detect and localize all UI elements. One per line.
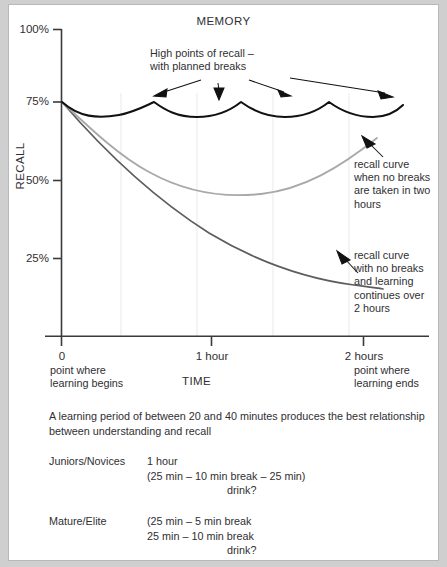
x-tick-label-1-hour: 1 hour xyxy=(177,350,247,362)
schedule-line-1: (25 min – 5 min break xyxy=(147,514,431,529)
schedule-line-2: 25 min – 10 min break xyxy=(147,529,431,544)
schedule-row-label: Juniors/Novices xyxy=(49,454,147,498)
annotation-high-points: High points of recall – with planned bre… xyxy=(150,47,330,73)
x-tick-label-2-hours: 2 hours xyxy=(329,350,399,362)
schedule-drink-note: drink? xyxy=(227,483,431,498)
y-tick-label-25: 25% xyxy=(8,252,49,264)
x-axis-ticks xyxy=(62,336,364,346)
note-learning-ends: point where learning ends xyxy=(354,364,439,390)
curve-planned-breaks xyxy=(62,102,403,117)
y-axis-title: RECALL xyxy=(14,136,26,196)
page-root: MEMORY RECALL TIME 100% 75% 50% 25% 0 1 … xyxy=(0,0,447,567)
schedule-row-body: 1 hour (25 min – 10 min break – 25 min) … xyxy=(147,454,431,498)
schedule-line-2: (25 min – 10 min break – 25 min) xyxy=(147,469,431,484)
schedule-line-1: 1 hour xyxy=(147,454,431,469)
intro-paragraph: A learning period of between 20 and 40 m… xyxy=(49,409,431,438)
y-tick-label-50: 50% xyxy=(8,174,49,186)
schedule-line-3: 25 min) xyxy=(147,558,431,561)
schedule-row-body: (25 min – 5 min break 25 min – 10 min br… xyxy=(147,514,431,561)
schedule-row: Mature/Elite (25 min – 5 min break 25 mi… xyxy=(49,514,431,561)
y-tick-label-75: 75% xyxy=(8,95,49,107)
y-tick-label-100: 100% xyxy=(8,23,49,35)
y-axis-ticks xyxy=(53,30,62,259)
x-tick-label-0: 0 xyxy=(27,350,97,362)
explanatory-text-block: A learning period of between 20 and 40 m… xyxy=(49,409,431,561)
schedule-drink-note: drink? xyxy=(227,543,431,558)
annotation-learning-continues: recall curve with no breaks and learning… xyxy=(354,249,439,315)
schedule-row-label: Mature/Elite xyxy=(49,514,147,561)
curve-learning-continues xyxy=(62,102,383,289)
figure-panel: MEMORY RECALL TIME 100% 75% 50% 25% 0 1 … xyxy=(8,4,439,561)
annotation-no-breaks: recall curve when no breaks are taken in… xyxy=(354,158,439,211)
note-learning-begins: point where learning begins xyxy=(50,364,160,390)
chart-area: MEMORY RECALL TIME 100% 75% 50% 25% 0 1 … xyxy=(9,5,438,397)
chart-title: MEMORY xyxy=(9,15,438,27)
schedule-row: Juniors/Novices 1 hour (25 min – 10 min … xyxy=(49,454,431,498)
gridlines xyxy=(121,93,349,336)
